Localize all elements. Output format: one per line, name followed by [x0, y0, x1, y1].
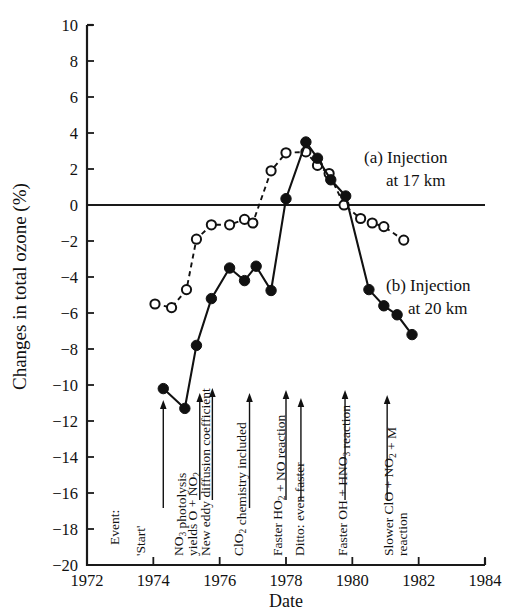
- legend-a-line1: (a) Injection: [364, 148, 448, 167]
- event-label: Faster HO2 + NO reaction: [270, 414, 288, 556]
- data-point-marker: [158, 383, 168, 393]
- y-tick-label: 4: [70, 124, 78, 143]
- data-point-marker: [266, 166, 275, 175]
- event-label: Ditto: even faster: [292, 462, 307, 556]
- data-point-marker: [224, 263, 234, 273]
- event-annotations: 'Start'NO3 photolysisyields O + NO2New e…: [133, 388, 410, 556]
- event-arrow-head: [160, 400, 167, 409]
- chart-svg: Changes in total ozone (%) 1086420−2−4−6…: [0, 0, 521, 616]
- legend-b-line2: at 20 km: [408, 299, 468, 318]
- x-tick-label: 1974: [137, 571, 170, 590]
- y-tick-label: 8: [70, 52, 78, 71]
- x-tick-label: 1978: [270, 571, 303, 590]
- data-point-marker: [182, 285, 191, 294]
- event-annotation: Faster OH + HNO3 reaction: [335, 390, 353, 556]
- data-point-marker: [248, 218, 257, 227]
- event-arrow-head: [246, 393, 253, 402]
- event-annotation: New eddy diffusion coefficient: [198, 388, 216, 556]
- event-label: Faster OH + HNO3 reaction: [335, 405, 353, 556]
- event-header-label: Event:: [107, 510, 122, 545]
- event-label: reaction: [395, 512, 410, 556]
- y-tick-label: −18: [52, 520, 78, 539]
- y-tick-label: −10: [52, 376, 78, 395]
- data-point-marker: [225, 220, 234, 229]
- data-point-marker: [379, 301, 389, 311]
- x-axis-ticks: 1972197419761978198019821984: [71, 557, 502, 590]
- data-point-marker: [192, 235, 201, 244]
- data-point-marker: [239, 275, 249, 285]
- y-tick-label: −6: [60, 304, 78, 323]
- event-annotation: Faster HO2 + NO reaction: [270, 390, 289, 556]
- y-tick-label: −12: [52, 412, 78, 431]
- event-annotation: Ditto: even faster: [292, 398, 307, 556]
- y-tick-label: −4: [60, 268, 78, 287]
- data-point-marker: [379, 222, 388, 231]
- y-tick-label: −2: [60, 232, 78, 251]
- series-injection-20km: [158, 137, 417, 414]
- x-tick-label: 1984: [469, 571, 502, 590]
- data-point-marker: [392, 310, 402, 320]
- series-line: [163, 142, 412, 408]
- ozone-change-chart: Changes in total ozone (%) 1086420−2−4−6…: [0, 0, 521, 616]
- event-label: 'Start': [133, 526, 148, 556]
- data-point-marker: [251, 261, 261, 271]
- data-point-marker: [281, 194, 291, 204]
- y-tick-label: 6: [70, 88, 78, 107]
- data-point-marker: [150, 299, 159, 308]
- y-tick-label: −8: [60, 340, 78, 359]
- data-point-marker: [312, 153, 322, 163]
- data-point-marker: [180, 403, 190, 413]
- data-point-marker: [191, 340, 201, 350]
- series-line: [155, 152, 404, 308]
- y-axis-title-text: Changes in total ozone (%): [9, 183, 31, 390]
- event-arrow-head: [342, 390, 349, 399]
- data-point-marker: [356, 214, 365, 223]
- x-tick-label: 1980: [336, 571, 369, 590]
- data-point-marker: [281, 148, 290, 157]
- y-tick-label: 0: [70, 196, 78, 215]
- y-tick-label: 10: [62, 16, 79, 35]
- y-tick-label: 2: [70, 160, 78, 179]
- event-annotation: Slower ClO + NO2 + Mreaction: [381, 395, 410, 556]
- legend-b-line1: (b) Injection: [386, 276, 471, 295]
- event-arrow-head: [283, 390, 290, 399]
- x-tick-label: 1972: [71, 571, 104, 590]
- data-point-marker: [207, 220, 216, 229]
- data-point-marker: [266, 285, 276, 295]
- data-point-marker: [301, 137, 311, 147]
- y-axis-title: Changes in total ozone (%): [9, 183, 31, 390]
- legend-a-line2: at 17 km: [386, 171, 446, 190]
- legend-injection-17km: (a) Injection at 17 km: [364, 148, 448, 190]
- x-tick-label: 1976: [203, 571, 236, 590]
- x-tick-label: 1982: [402, 571, 435, 590]
- x-axis-title: Date: [269, 591, 303, 611]
- data-point-marker: [399, 236, 408, 245]
- event-annotation: ClO2 chemistry included: [231, 393, 253, 556]
- event-label: New eddy diffusion coefficient: [198, 388, 213, 556]
- data-point-marker: [368, 218, 377, 227]
- data-point-marker: [167, 303, 176, 312]
- y-tick-label: −14: [52, 448, 78, 467]
- event-arrow-head: [298, 398, 305, 407]
- data-point-marker: [341, 191, 351, 201]
- data-point-marker: [407, 329, 417, 339]
- data-point-marker: [206, 293, 216, 303]
- event-label: ClO2 chemistry included: [231, 422, 249, 556]
- data-point-marker: [326, 175, 336, 185]
- y-tick-label: −16: [52, 484, 78, 503]
- event-annotation: 'Start': [133, 400, 167, 556]
- event-arrow-head: [384, 395, 391, 404]
- data-point-marker: [364, 284, 374, 294]
